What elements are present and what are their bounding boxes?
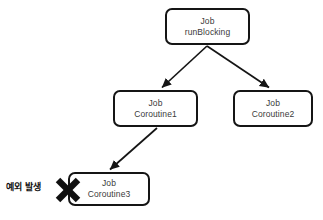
node-label-line1: Job [148,98,162,109]
edge-runblocking-to-coroutine2 [207,46,269,88]
edge-coroutine1-to-coroutine3 [110,128,157,170]
node-job-runblocking[interactable]: Job runBlocking [165,8,250,45]
node-label-line1: Job [102,178,116,189]
x-cross-icon [52,174,84,206]
node-label-line1: Job [200,16,214,27]
node-job-coroutine1[interactable]: Job Coroutine1 [113,90,198,127]
node-label-line2: runBlocking [185,27,231,38]
coroutine-job-hierarchy-diagram: Job runBlocking Job Coroutine1 Job Corou… [0,0,323,220]
node-label-line1: Job [266,98,280,109]
node-job-coroutine2[interactable]: Job Coroutine2 [233,90,313,127]
node-label-line2: Coroutine1 [134,109,177,120]
edge-runblocking-to-coroutine1 [162,46,207,88]
node-label-line2: Coroutine3 [88,189,131,200]
node-label-line2: Coroutine2 [252,109,295,120]
